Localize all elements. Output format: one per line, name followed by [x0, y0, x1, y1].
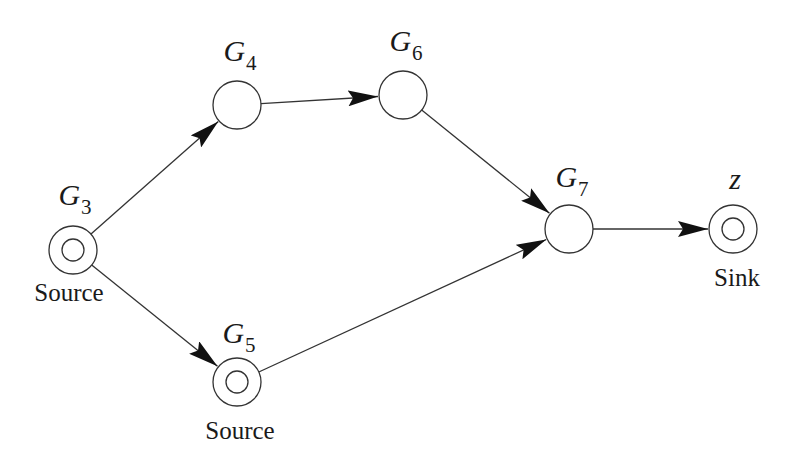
edge-g4-to-g6 — [261, 97, 378, 104]
node-g5 — [213, 358, 261, 406]
node-label-g6: G6 — [389, 26, 422, 56]
node-g7 — [545, 205, 593, 253]
edge-g3-to-g4 — [91, 122, 218, 235]
node-label-g7: G7 — [555, 162, 588, 192]
node-g3 — [49, 226, 97, 274]
edge-g6-to-g7 — [422, 110, 550, 213]
nodes-layer — [49, 71, 757, 406]
node-z — [709, 205, 757, 253]
role-label-z-sink: Sink — [714, 265, 760, 290]
node-g4 — [213, 81, 261, 129]
edge-g3-to-g5 — [92, 265, 218, 366]
node-label-g4: G4 — [223, 36, 256, 66]
edges-layer — [91, 97, 708, 373]
node-label-g3: G3 — [58, 180, 91, 210]
node-label-g5: G5 — [222, 318, 255, 348]
edge-g5-to-g7 — [259, 240, 547, 373]
graph-diagram — [0, 0, 785, 458]
node-label-z: z — [729, 164, 741, 194]
role-label-g5-source: Source — [205, 418, 274, 443]
node-g6 — [379, 71, 427, 119]
role-label-g3-source: Source — [34, 280, 103, 305]
